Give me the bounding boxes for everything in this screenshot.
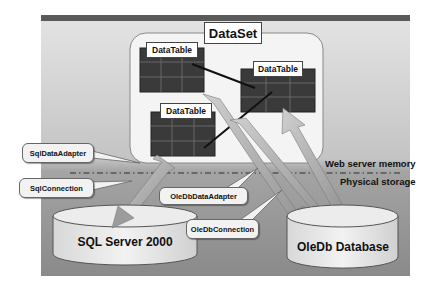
sql-server-label: SQL Server 2000 bbox=[60, 232, 190, 252]
callout-oledbconnection: OleDbConnection bbox=[186, 219, 259, 239]
callout-sqlconnection: SqlConnection bbox=[19, 178, 94, 198]
physical-storage-label: Physical storage bbox=[340, 175, 435, 188]
callout-sqldataadapter: SqlDataAdapter bbox=[22, 143, 94, 163]
datatable-label-2: DataTable bbox=[253, 61, 303, 77]
top-bar bbox=[41, 15, 410, 21]
callout-oledbdataadapter: OleDbDataAdapter bbox=[159, 187, 248, 205]
web-server-memory-label: Web server memory bbox=[325, 157, 435, 170]
dataset-title: DataSet bbox=[204, 22, 262, 44]
datatable-label-3: DataTable bbox=[160, 103, 212, 119]
datatable-label-1: DataTable bbox=[146, 42, 198, 58]
oledb-database-label: OleDb Database bbox=[292, 237, 394, 257]
diagram-canvas: DataSet DataTable DataTable DataTable Sq… bbox=[0, 0, 435, 287]
